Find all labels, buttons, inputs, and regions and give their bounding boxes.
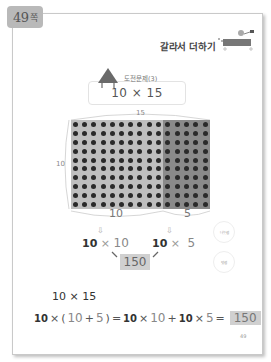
- right-operator: ×: [171, 237, 180, 250]
- dot: [91, 202, 96, 207]
- dot: [203, 175, 208, 180]
- left-factor-b: 10: [114, 236, 129, 250]
- dot: [193, 158, 198, 163]
- bottom-right-label: 5: [184, 207, 191, 220]
- footer-page-number: 49: [240, 333, 246, 339]
- dot: [165, 131, 170, 136]
- dot: [137, 175, 142, 180]
- dot: [165, 158, 170, 163]
- dot: [91, 184, 96, 189]
- expr-term: 10: [150, 311, 165, 325]
- dot: [193, 122, 198, 127]
- dot: [156, 140, 161, 145]
- dot: [175, 149, 180, 154]
- dot: [175, 202, 180, 207]
- expression-title: 10 × 15: [52, 290, 96, 303]
- dot: [101, 184, 106, 189]
- dot: [119, 122, 124, 127]
- breakdown-result: 150: [120, 254, 150, 270]
- grid-right-part: [163, 120, 210, 209]
- dot: [165, 193, 170, 198]
- dot: [91, 122, 96, 127]
- dot: [156, 149, 161, 154]
- dot: [165, 202, 170, 207]
- dot: [193, 184, 198, 189]
- dot: [203, 149, 208, 154]
- dot: [128, 158, 133, 163]
- dot: [73, 166, 78, 171]
- dot: [203, 193, 208, 198]
- dot: [203, 122, 208, 127]
- expression-result: 150: [230, 311, 261, 325]
- dot: [147, 184, 152, 189]
- dot: [137, 202, 142, 207]
- dot: [119, 175, 124, 180]
- dot: [147, 158, 152, 163]
- dot: [156, 166, 161, 171]
- dot: [184, 158, 189, 163]
- dot: [119, 166, 124, 171]
- dot: [119, 184, 124, 189]
- expr-term: 5: [206, 311, 214, 325]
- dot: [110, 193, 115, 198]
- left-product: 10 × 10: [82, 236, 129, 250]
- dot: [82, 158, 87, 163]
- dot: [82, 193, 87, 198]
- dot: [147, 122, 152, 127]
- dot: [175, 158, 180, 163]
- dot: [203, 184, 208, 189]
- challenge-card: 10 × 15 도전문제(3): [88, 67, 184, 105]
- expr-op: +: [168, 312, 177, 325]
- dot: [184, 193, 189, 198]
- dot: [101, 149, 106, 154]
- dot: [137, 140, 142, 145]
- dot: [193, 149, 198, 154]
- dot: [175, 175, 180, 180]
- dot: [137, 184, 142, 189]
- dot: [156, 202, 161, 207]
- dot: [128, 202, 133, 207]
- dot: [193, 131, 198, 136]
- dot-grid: [71, 120, 210, 209]
- dot: [110, 149, 115, 154]
- dot: [203, 158, 208, 163]
- dot: [101, 122, 106, 127]
- dot: [203, 131, 208, 136]
- dot: [193, 175, 198, 180]
- expr-paren: ): [106, 312, 110, 325]
- dot: [73, 122, 78, 127]
- side-dimension-label: 10: [56, 160, 65, 168]
- dot: [110, 175, 115, 180]
- dot: [147, 193, 152, 198]
- dot: [91, 149, 96, 154]
- dot: [147, 140, 152, 145]
- dot: [156, 122, 161, 127]
- dot: [175, 122, 180, 127]
- dot: [184, 166, 189, 171]
- tent-icon: [97, 67, 119, 89]
- dot: [156, 131, 161, 136]
- dot: [175, 131, 180, 136]
- dot: [82, 140, 87, 145]
- dot: [82, 202, 87, 207]
- dot: [101, 131, 106, 136]
- expr-op: ×: [139, 312, 148, 325]
- expr-term: 10: [34, 313, 48, 324]
- dot: [73, 149, 78, 154]
- section-title: 갈라서 더하기: [160, 39, 215, 53]
- dot: [165, 140, 170, 145]
- dot: [91, 175, 96, 180]
- dot: [91, 193, 96, 198]
- dot: [128, 140, 133, 145]
- bottom-left-label: 10: [109, 207, 123, 220]
- dot: [82, 131, 87, 136]
- right-factor-b: 5: [188, 236, 196, 250]
- dot: [184, 122, 189, 127]
- dot: [110, 184, 115, 189]
- dot: [101, 202, 106, 207]
- page-number-tab: 49쪽: [7, 6, 43, 28]
- dot: [128, 193, 133, 198]
- dot: [184, 175, 189, 180]
- dot: [82, 175, 87, 180]
- dot: [193, 140, 198, 145]
